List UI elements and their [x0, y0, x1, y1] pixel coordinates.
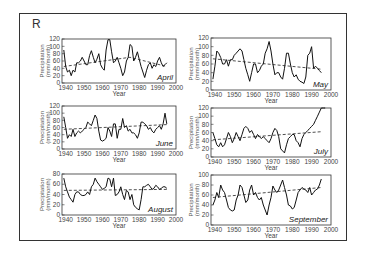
x-tick-label: 1980	[132, 84, 147, 91]
y-tick-label: 120	[198, 104, 209, 111]
observed-line	[213, 42, 321, 84]
chart-july: 0204060801001201940195019601970198019902…	[188, 104, 339, 171]
y-axis-unit: (mm/month)	[45, 45, 51, 77]
trend-line	[213, 188, 321, 198]
chart-april: 0204060801001201940195019601970198019902…	[39, 35, 184, 97]
month-label: June	[155, 139, 174, 148]
x-tick-label: 1940	[208, 91, 223, 98]
x-tick-label: 1990	[150, 216, 165, 223]
x-tick-label: 2000	[169, 150, 184, 157]
observed-line	[64, 40, 167, 78]
y-tick-label: 60	[202, 129, 210, 136]
chart-september: 0204060801001940195019601970198019902000…	[188, 171, 339, 239]
y-tick-label: 20	[53, 201, 61, 208]
month-label: July	[313, 147, 329, 156]
y-tick-label: 100	[198, 171, 209, 178]
y-tick-label: 40	[202, 201, 210, 208]
y-tick-label: 80	[202, 181, 210, 188]
x-tick-label: 1940	[208, 158, 223, 165]
x-tick-label: 1950	[227, 91, 242, 98]
y-tick-label: 40	[53, 65, 61, 72]
x-tick-label: 1960	[95, 84, 110, 91]
y-tick-label: 60	[53, 57, 61, 64]
trend-line	[64, 189, 167, 190]
x-tick-label: 1990	[304, 91, 319, 98]
x-tick-label: 1940	[58, 216, 73, 223]
x-tick-label: 1950	[227, 226, 242, 233]
y-tick-label: 60	[53, 180, 61, 187]
x-tick-label: 1950	[227, 158, 242, 165]
x-tick-label: 1960	[246, 91, 261, 98]
trend-line	[213, 132, 321, 140]
x-axis-label: Year	[112, 222, 126, 229]
x-tick-label: 2000	[324, 91, 339, 98]
x-tick-label: 1960	[95, 216, 110, 223]
x-tick-label: 1980	[285, 91, 300, 98]
x-tick-label: 1980	[132, 150, 147, 157]
y-tick-label: 120	[198, 34, 209, 41]
y-tick-label: 20	[53, 138, 61, 145]
chart-august: 0204060801940195019601970198019902000Yea…	[39, 170, 184, 229]
y-axis-unit: (mm/month)	[194, 116, 200, 148]
y-axis-unit: (mm/month)	[194, 48, 200, 80]
x-tick-label: 1950	[77, 84, 92, 91]
y-tick-label: 40	[53, 131, 61, 138]
month-label: August	[147, 205, 174, 214]
month-label: September	[289, 215, 328, 224]
y-tick-label: 60	[202, 60, 210, 67]
y-tick-label: 40	[53, 191, 61, 198]
y-axis-unit: (mm/month)	[194, 184, 200, 216]
y-axis-unit: (mm/month)	[45, 178, 51, 210]
y-tick-label: 80	[53, 50, 61, 57]
x-tick-label: 1990	[150, 150, 165, 157]
x-tick-label: 1960	[246, 226, 261, 233]
observed-line	[213, 179, 321, 215]
chart-june: 0204060801001201940195019601970198019902…	[39, 102, 184, 163]
precipitation-charts: 0204060801001201940195019601970198019902…	[0, 0, 366, 255]
x-tick-label: 1990	[304, 226, 319, 233]
x-tick-label: 1950	[77, 150, 92, 157]
x-tick-label: 1980	[285, 226, 300, 233]
y-tick-label: 80	[202, 121, 210, 128]
x-tick-label: 1960	[95, 150, 110, 157]
x-tick-label: 1980	[285, 158, 300, 165]
y-tick-label: 80	[53, 117, 61, 124]
observed-line	[213, 108, 325, 153]
y-tick-label: 120	[49, 102, 60, 109]
y-tick-label: 80	[202, 52, 210, 59]
y-tick-label: 40	[202, 69, 210, 76]
x-axis-label: Year	[264, 97, 278, 104]
x-tick-label: 1950	[77, 216, 92, 223]
y-tick-label: 20	[53, 72, 61, 79]
x-tick-label: 1990	[150, 84, 165, 91]
x-axis-label: Year	[112, 156, 126, 163]
x-tick-label: 1990	[304, 158, 319, 165]
x-axis-label: Year	[264, 232, 278, 239]
y-tick-label: 20	[202, 78, 210, 85]
y-axis-unit: (mm/month)	[45, 111, 51, 143]
x-axis-label: Year	[112, 90, 126, 97]
x-axis-label: Year	[264, 164, 278, 171]
y-tick-label: 40	[202, 137, 210, 144]
x-tick-label: 1940	[208, 226, 223, 233]
month-label: April	[156, 73, 173, 82]
x-tick-label: 1940	[58, 84, 73, 91]
y-tick-label: 20	[202, 211, 210, 218]
x-tick-label: 1940	[58, 150, 73, 157]
x-tick-label: 2000	[169, 84, 184, 91]
y-tick-label: 60	[202, 191, 210, 198]
y-tick-label: 20	[202, 145, 210, 152]
x-tick-label: 2000	[324, 158, 339, 165]
y-tick-label: 80	[53, 170, 61, 177]
x-tick-label: 1980	[132, 216, 147, 223]
x-tick-label: 1960	[246, 158, 261, 165]
y-tick-label: 120	[49, 35, 60, 42]
y-tick-label: 60	[53, 124, 61, 131]
x-tick-label: 2000	[169, 216, 184, 223]
chart-may: 0204060801001201940195019601970198019902…	[188, 34, 339, 104]
x-tick-label: 2000	[324, 226, 339, 233]
month-label: May	[313, 80, 329, 89]
